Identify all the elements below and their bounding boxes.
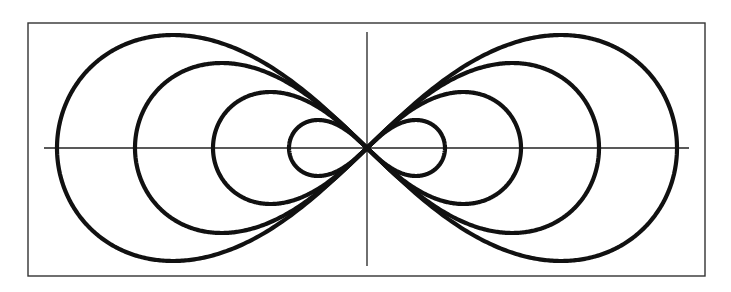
lemniscate-figure — [0, 0, 731, 292]
